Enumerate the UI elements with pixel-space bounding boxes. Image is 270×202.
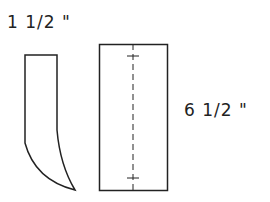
rectangle-piece: [100, 44, 168, 191]
pattern-diagram: [0, 0, 270, 202]
curved-strip-piece: [25, 55, 75, 190]
